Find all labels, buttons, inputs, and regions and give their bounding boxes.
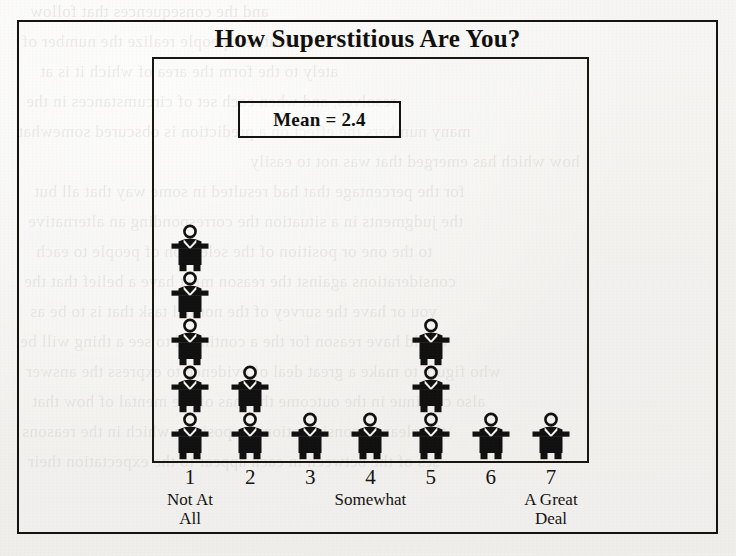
x-axis-tick-number: 2 bbox=[222, 466, 278, 488]
x-axis-tick-number: 4 bbox=[342, 466, 398, 488]
x-axis-label-row: 1Not AtAll234Somewhat567A GreatDeal bbox=[154, 466, 587, 488]
person-icon bbox=[170, 365, 210, 413]
pictogram-column-5 bbox=[403, 318, 459, 459]
x-axis-anchor-label: A GreatDeal bbox=[524, 490, 577, 528]
x-axis-tick-2: 2 bbox=[222, 466, 278, 488]
x-axis-tick-number: 6 bbox=[463, 466, 519, 488]
person-icon bbox=[411, 412, 451, 460]
anchor-line-2: All bbox=[179, 509, 201, 528]
person-icon bbox=[350, 412, 390, 460]
person-icon bbox=[230, 412, 270, 460]
x-axis-anchor-label: Not AtAll bbox=[167, 490, 213, 528]
person-icon bbox=[290, 412, 330, 460]
person-icon bbox=[230, 365, 270, 413]
person-icon bbox=[170, 224, 210, 272]
pictogram-column-1 bbox=[162, 224, 218, 459]
pictogram-column-2 bbox=[222, 365, 278, 459]
x-axis-tick-4: 4Somewhat bbox=[342, 466, 398, 488]
x-axis-tick-5: 5 bbox=[403, 466, 459, 488]
pictogram-column-4 bbox=[342, 412, 398, 459]
anchor-line-1: Not At bbox=[167, 490, 213, 509]
pictogram-column-3 bbox=[282, 412, 338, 459]
x-axis-tick-number: 1 bbox=[162, 466, 218, 488]
person-icon bbox=[170, 318, 210, 366]
x-axis-tick-7: 7A GreatDeal bbox=[523, 466, 579, 488]
chart-title: How Superstitious Are You? bbox=[17, 25, 718, 53]
pictogram-column-6 bbox=[463, 412, 519, 459]
x-axis-anchor-label: Somewhat bbox=[335, 490, 407, 509]
anchor-line-1: A Great bbox=[524, 490, 577, 509]
x-axis-tick-6: 6 bbox=[463, 466, 519, 488]
x-axis-tick-number: 7 bbox=[523, 466, 579, 488]
x-axis-tick-number: 5 bbox=[403, 466, 459, 488]
person-icon bbox=[170, 271, 210, 319]
anchor-line-1: Somewhat bbox=[335, 490, 407, 509]
x-axis-tick-number: 3 bbox=[282, 466, 338, 488]
person-icon bbox=[531, 412, 571, 460]
person-icon bbox=[411, 318, 451, 366]
anchor-line-2: Deal bbox=[535, 509, 567, 528]
person-icon bbox=[411, 365, 451, 413]
x-axis-tick-3: 3 bbox=[282, 466, 338, 488]
person-icon bbox=[471, 412, 511, 460]
x-axis-tick-1: 1Not AtAll bbox=[162, 466, 218, 488]
person-icon bbox=[170, 412, 210, 460]
pictogram-plot-area bbox=[154, 59, 587, 461]
pictogram-column-7 bbox=[523, 412, 579, 459]
